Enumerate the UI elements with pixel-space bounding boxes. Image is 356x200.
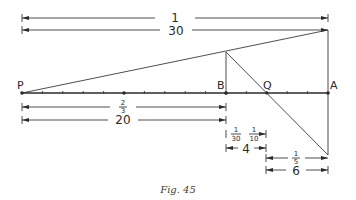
diagonal-b-to-a-bottom xyxy=(226,52,328,155)
label-top-ratio: 1 xyxy=(171,11,179,25)
label-top-length: 30 xyxy=(168,24,183,38)
figure-caption: Fig. 45 xyxy=(159,184,196,195)
dimension-top-length: 30 xyxy=(22,24,328,38)
label-pb-length: 20 xyxy=(115,113,130,127)
dimension-qa-length: 6 xyxy=(266,164,328,178)
point-label-b: B xyxy=(217,79,225,92)
bq-ratio-right-denominator: 10 xyxy=(250,135,259,143)
dimension-bq-length: 4 xyxy=(226,142,266,156)
line-p-to-a-top xyxy=(22,30,328,93)
dimension-pb-length: 20 xyxy=(22,113,226,127)
dimension-top-ratio: 1 xyxy=(22,11,328,25)
pb-ratio-numerator: 2 xyxy=(121,99,125,107)
major-tick xyxy=(122,91,126,95)
label-qa-length: 6 xyxy=(292,164,300,178)
bq-ratio-left-numerator: 1 xyxy=(234,126,238,134)
baseline-scale xyxy=(20,91,330,95)
label-bq-length: 4 xyxy=(242,142,250,156)
point-label-q: Q xyxy=(263,79,272,92)
point-marker-b xyxy=(224,91,227,94)
bq-ratio-right-numerator: 1 xyxy=(252,126,256,134)
point-label-p: P xyxy=(17,79,24,92)
point-label-a: A xyxy=(330,79,338,92)
diagram: 1 30 P B Q A 2 3 20 1 3 xyxy=(0,0,356,200)
bq-ratio-left-denominator: 30 xyxy=(232,135,241,143)
dimension-bq-ratios: 1 30 1 10 xyxy=(226,126,266,143)
qa-ratio-numerator: 1 xyxy=(294,150,298,158)
